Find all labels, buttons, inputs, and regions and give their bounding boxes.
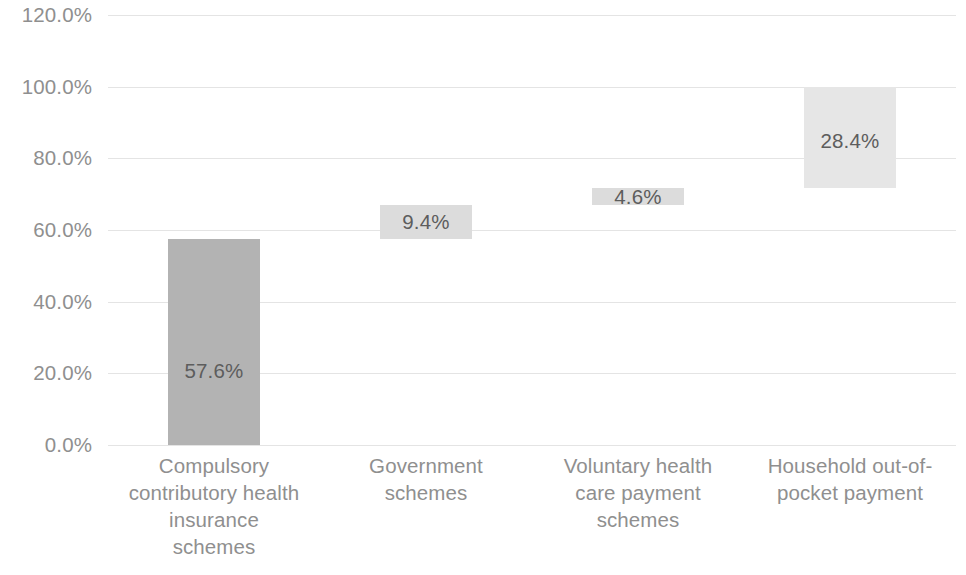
y-tick-label: 20.0%: [33, 361, 92, 385]
gridline-00: [108, 445, 956, 446]
x-category-label-line: schemes: [323, 479, 529, 506]
x-category-label-line: schemes: [111, 533, 317, 560]
x-category-label-line: Compulsory: [111, 452, 317, 479]
gridline-1200: [108, 15, 956, 16]
x-category-label-line: Government: [323, 452, 529, 479]
bar-value-label-4: 28.4%: [744, 129, 956, 153]
gridline-600: [108, 230, 956, 231]
x-category-label-line: care payment: [535, 479, 741, 506]
x-category-label-line: schemes: [535, 506, 741, 533]
x-category-label-line: Voluntary health: [535, 452, 741, 479]
x-category-label-2: Governmentschemes: [323, 452, 529, 506]
bar-value-label-2: 9.4%: [320, 210, 532, 234]
y-axis: 120.0%100.0%80.0%60.0%40.0%20.0%0.0%: [0, 0, 100, 575]
x-category-label-3: Voluntary healthcare paymentschemes: [535, 452, 741, 533]
x-category-label-line: contributory health: [111, 479, 317, 506]
y-tick-label: 120.0%: [22, 3, 92, 27]
y-tick-label: 40.0%: [33, 290, 92, 314]
bar-value-label-1: 57.6%: [108, 359, 320, 383]
plot-area: 57.6%9.4%4.6%28.4%: [108, 15, 956, 445]
x-category-label-line: Household out-of-: [747, 452, 953, 479]
x-axis: Compulsorycontributory healthinsurancesc…: [108, 452, 956, 572]
y-tick-label: 0.0%: [45, 433, 92, 457]
x-category-label-line: insurance: [111, 506, 317, 533]
waterfall-chart: 57.6%9.4%4.6%28.4% 120.0%100.0%80.0%60.0…: [0, 0, 966, 575]
y-tick-label: 80.0%: [33, 146, 92, 170]
x-category-label-4: Household out-of-pocket payment: [747, 452, 953, 506]
x-category-label-1: Compulsorycontributory healthinsurancesc…: [111, 452, 317, 560]
bar-1[interactable]: [168, 239, 260, 445]
bar-value-label-3: 4.6%: [532, 185, 744, 209]
x-category-label-line: pocket payment: [747, 479, 953, 506]
y-tick-label: 60.0%: [33, 218, 92, 242]
y-tick-label: 100.0%: [22, 75, 92, 99]
